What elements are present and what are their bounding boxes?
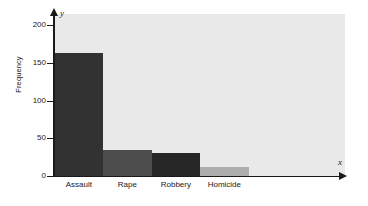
y-tick-mark [47, 176, 54, 177]
bar-chart-figure: y x Frequency 050100150200 AssaultRapeRo… [0, 0, 368, 206]
x-axis-arrow-icon [339, 172, 347, 180]
y-axis-line [53, 14, 55, 177]
plot-area [55, 14, 345, 176]
y-tick-label: 150 [20, 59, 46, 67]
y-axis-name-label: y [60, 8, 64, 18]
y-tick-label-group: 050100150200 [14, 0, 46, 206]
x-tick-label-assault: Assault [55, 180, 104, 189]
x-axis-line [53, 176, 341, 178]
y-tick-label: 100 [20, 97, 46, 105]
y-tick-mark [47, 25, 54, 26]
y-tick-mark [47, 138, 54, 139]
y-axis-arrow-icon [50, 8, 58, 16]
bar-assault [55, 53, 104, 176]
x-axis-name-label: x [338, 157, 342, 167]
x-tick-label-robbery: Robbery [152, 180, 201, 189]
bar-robbery [152, 153, 201, 176]
y-tick-label: 50 [20, 134, 46, 142]
y-tick-label: 200 [20, 21, 46, 29]
x-tick-label-rape: Rape [103, 180, 152, 189]
bar-rape [103, 150, 152, 176]
y-tick-mark [47, 63, 54, 64]
y-tick-label: 0 [20, 172, 46, 180]
x-tick-label-homicide: Homicide [200, 180, 249, 189]
y-tick-mark [47, 101, 54, 102]
